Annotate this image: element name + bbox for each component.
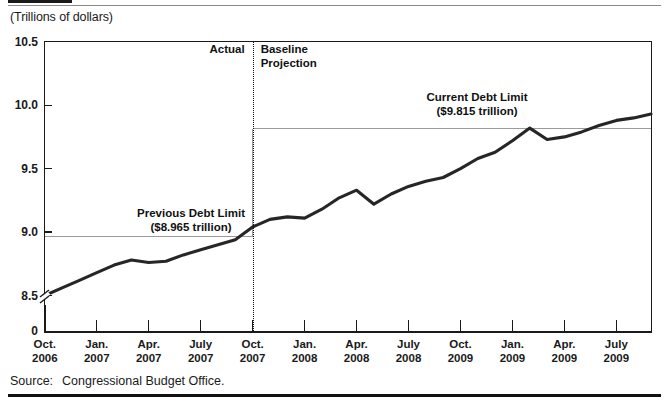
annotation-previous-debt-limit: Previous Debt Limit ($8.965 trillion) — [86, 206, 296, 234]
annotation-previous-debt-limit-title: Previous Debt Limit — [86, 206, 296, 220]
annotation-current-debt-limit-value: ($9.815 trillion) — [372, 104, 582, 118]
actual-projection-divider — [253, 42, 254, 331]
bottom-rule — [8, 394, 661, 397]
y-axis-break-marker — [40, 290, 49, 303]
source-note: Source:Congressional Budget Office. — [10, 374, 224, 388]
annotation-current-debt-limit-title: Current Debt Limit — [372, 90, 582, 104]
annotation-baseline-line2: Projection — [261, 56, 341, 70]
source-organization: Congressional Budget Office. — [62, 374, 224, 388]
annotation-previous-debt-limit-value: ($8.965 trillion) — [86, 220, 296, 234]
annotation-current-debt-limit: Current Debt Limit ($9.815 trillion) — [372, 90, 582, 118]
annotation-baseline-line1: Baseline — [261, 42, 341, 56]
annotation-actual: Actual — [199, 42, 245, 56]
annotation-baseline-projection: Baseline Projection — [261, 42, 341, 70]
chart-figure: (Trillions of dollars) 10.510.09.59.08.5… — [0, 0, 669, 404]
source-label: Source: — [10, 374, 53, 388]
